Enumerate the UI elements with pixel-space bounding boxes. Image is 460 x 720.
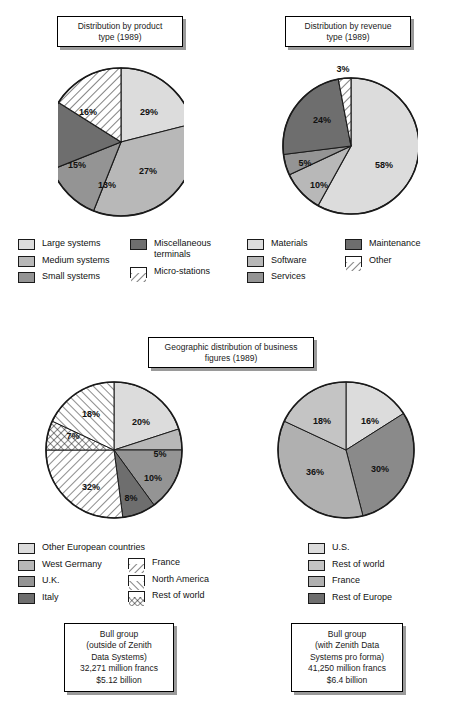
swatch-rest-of-europe	[308, 593, 325, 604]
geo-label-france: 32%	[82, 482, 100, 492]
swatch-software	[247, 256, 264, 267]
product-label-miscellaneous-terminals: 15%	[68, 160, 86, 170]
hatch-diag-forward-icon	[346, 262, 361, 271]
revenue-legend-column-right: Maintenance Other	[345, 238, 455, 271]
revenue-label-other: 3%	[336, 66, 349, 74]
legend-item[interactable]: Large systems	[18, 238, 130, 250]
legend-label: Micro-stations	[154, 266, 210, 277]
legend-label: U.K.	[42, 575, 60, 586]
geo-label-west-germany: 5%	[153, 449, 166, 459]
product-legend-column-left: Large systems Medium systems Small syste…	[18, 238, 130, 288]
legend-item[interactable]: Other	[345, 255, 455, 267]
swatch-materials	[247, 239, 264, 250]
bull-group-right-text: Bull group (with Zenith Data Systems pro…	[308, 629, 386, 687]
legend-label: Materials	[271, 238, 308, 249]
swatch-west-germany	[18, 560, 35, 571]
legend-item[interactable]: Maintenance	[345, 238, 455, 250]
hatch-diag-forward-icon	[129, 564, 144, 573]
legend-label: Italy	[42, 592, 59, 603]
legend-label: Software	[271, 255, 307, 266]
swatch-us	[308, 543, 325, 554]
legend-label: Large systems	[42, 238, 101, 249]
legend-label: Rest of world	[152, 590, 205, 601]
legend-label: Miscellaneous terminals	[154, 238, 211, 260]
legend-label: Other European countries	[42, 542, 145, 553]
swatch-uk	[18, 576, 35, 587]
product-label-large-systems: 29%	[140, 107, 158, 117]
legend-label: West Germany	[42, 559, 102, 570]
legend-item[interactable]: Micro-stations	[130, 266, 245, 278]
legend-item[interactable]: France	[128, 557, 248, 569]
figure-sheet: Distribution by producttype (1989)	[0, 0, 460, 720]
legend-label: France	[152, 557, 180, 568]
legend-item[interactable]: Services	[247, 271, 342, 283]
revenue-legend-column-left: Materials Software Services	[247, 238, 342, 288]
legend-item[interactable]: Rest of world	[308, 559, 438, 571]
legend-label: Medium systems	[42, 255, 110, 266]
geo-label-rest-of-world: 7%	[66, 431, 79, 441]
geographic-chart-title: Geographic distribution of businessfigur…	[165, 342, 298, 364]
revenue-chart-title-box: Distribution by revenuetype (1989)	[285, 16, 411, 47]
legend-label: Services	[271, 271, 306, 282]
swatch-maintenance	[345, 239, 362, 250]
legend-label: France	[332, 575, 360, 586]
product-chart-title: Distribution by producttype (1989)	[78, 21, 163, 43]
legend-label: U.S.	[332, 542, 350, 553]
product-legend-column-right: Miscellaneous terminals Micro-stations	[130, 238, 245, 283]
product-label-small-systems: 13%	[98, 180, 116, 190]
product-pie-chart: 29% 27% 13% 15% 16%	[58, 66, 184, 218]
swatch-italy	[18, 593, 35, 604]
geo-label-italy: 8%	[124, 493, 137, 503]
legend-label: Rest of Europe	[332, 592, 392, 603]
revenue-pie-chart: 58% 10% 5% 24% 3%	[278, 66, 418, 218]
swatch-bull-rest-of-world	[308, 560, 325, 571]
product-label-micro-stations: 16%	[79, 107, 97, 117]
geographic-legend-column-right: France North America Rest of world	[128, 557, 248, 607]
legend-item[interactable]: Software	[247, 255, 342, 267]
hatch-diag-back-icon	[129, 581, 144, 590]
bull-label-us: 16%	[361, 416, 379, 426]
legend-label: Maintenance	[369, 238, 421, 249]
legend-label: Other	[369, 255, 392, 266]
legend-label: North America	[152, 574, 209, 585]
swatch-micro-stations	[130, 267, 147, 278]
swatch-other	[345, 256, 362, 267]
product-chart-title-box: Distribution by producttype (1989)	[57, 16, 183, 47]
legend-label: Rest of world	[332, 559, 385, 570]
hatch-cross-icon	[129, 597, 144, 606]
bull-group-left-value-box: Bull group (outside of Zenith Data Syste…	[64, 623, 174, 692]
legend-item[interactable]: Small systems	[18, 271, 130, 283]
geographic-chart-title-box: Geographic distribution of businessfigur…	[148, 337, 314, 368]
legend-item[interactable]: Medium systems	[18, 255, 130, 267]
swatch-medium-systems	[18, 256, 35, 267]
legend-item[interactable]: Rest of Europe	[308, 592, 438, 604]
swatch-other-european-countries	[18, 543, 35, 554]
bull-group-right-value-box: Bull group (with Zenith Data Systems pro…	[291, 623, 403, 692]
swatch-france	[128, 558, 145, 569]
swatch-rest-of-world	[128, 591, 145, 602]
geographic-pie-chart: 20% 5% 10% 8% 32% 7% 18%	[36, 378, 196, 528]
legend-item[interactable]: France	[308, 575, 438, 587]
bull-label-rest-of-europe: 30%	[371, 464, 389, 474]
revenue-label-software: 10%	[310, 180, 328, 190]
bull-with-zenith-pie-svg: 16% 30% 36% 18%	[268, 378, 428, 528]
legend-item[interactable]: Miscellaneous terminals	[130, 238, 245, 260]
legend-item[interactable]: Materials	[247, 238, 342, 250]
legend-label: Small systems	[42, 271, 100, 282]
revenue-label-materials: 58%	[375, 160, 393, 170]
swatch-services	[247, 272, 264, 283]
legend-item[interactable]: U.S.	[308, 542, 438, 554]
swatch-large-systems	[18, 239, 35, 250]
bull-legend-column: U.S. Rest of world France Rest of Europe	[308, 542, 438, 608]
revenue-label-services: 5%	[298, 158, 311, 168]
legend-item[interactable]: Other European countries	[18, 542, 158, 554]
legend-item[interactable]: North America	[128, 574, 248, 586]
bull-group-left-text: Bull group (outside of Zenith Data Syste…	[80, 629, 158, 687]
bull-label-france: 36%	[306, 467, 324, 477]
legend-item[interactable]: Rest of world	[128, 590, 248, 602]
swatch-small-systems	[18, 272, 35, 283]
revenue-pie-svg: 58% 10% 5% 24% 3%	[278, 66, 418, 218]
swatch-miscellaneous-terminals	[130, 239, 147, 250]
swatch-north-america	[128, 575, 145, 586]
geo-label-other-european-countries: 20%	[132, 417, 150, 427]
